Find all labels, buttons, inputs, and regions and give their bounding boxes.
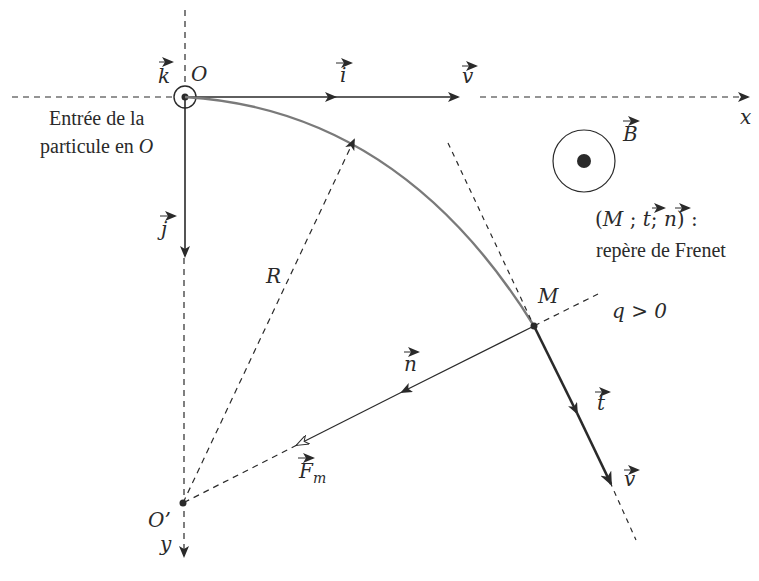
point-Oprime-dot: [180, 500, 187, 507]
frenet-M: M: [602, 207, 624, 231]
label-t: t: [597, 391, 606, 415]
vector-v-bottom: [577, 413, 611, 484]
label-y-axis: y: [159, 532, 172, 556]
entry-label-line2-point: O: [139, 135, 153, 157]
frenet-label-line2: repère de Frenet: [596, 239, 726, 262]
entry-label-line1: Entrée de la: [49, 107, 145, 129]
normal-dashed-inner: [183, 445, 297, 503]
diagram-svg: O k i v x B Entrée de la particule en O …: [0, 0, 759, 581]
frenet-close: ) :: [677, 207, 698, 231]
label-x-axis: x: [740, 105, 751, 129]
radius-line: [183, 140, 354, 503]
label-R: R: [265, 264, 281, 288]
label-Fm-main: F: [298, 459, 314, 483]
label-i: i: [340, 63, 346, 87]
vector-n-shaft: [297, 392, 402, 445]
label-j: j: [157, 217, 167, 241]
label-O: O: [191, 62, 207, 86]
tangent-dashed-upper: [448, 143, 534, 326]
frenet-sep1: ;: [623, 207, 642, 231]
entry-label-line2: particule en O: [40, 135, 153, 158]
label-v-bottom: v: [624, 467, 636, 491]
frenet-n: n: [664, 207, 677, 231]
label-B: B: [622, 122, 638, 146]
label-Oprime: O’: [148, 508, 171, 532]
label-n: n: [404, 352, 417, 376]
frenet-open: (: [595, 207, 603, 231]
vector-t: [534, 326, 577, 413]
b-field-dot-icon: [577, 154, 591, 168]
frenet-diagram: O k i v x B Entrée de la particule en O …: [0, 0, 759, 581]
label-M: M: [537, 284, 559, 308]
entry-label-line2-prefix: particule en: [40, 135, 139, 158]
trajectory-arc: [185, 97, 534, 326]
label-charge: q > 0: [612, 299, 667, 323]
frenet-sep2: ;: [651, 207, 664, 231]
label-Fm-sub: m: [313, 470, 326, 486]
label-Fm: Fm: [298, 459, 326, 486]
vector-n: [402, 326, 534, 392]
frenet-label-line1: (M ; t; n) :: [595, 207, 698, 231]
label-k: k: [158, 64, 170, 88]
point-M-dot: [531, 323, 538, 330]
label-v-top: v: [462, 64, 474, 88]
